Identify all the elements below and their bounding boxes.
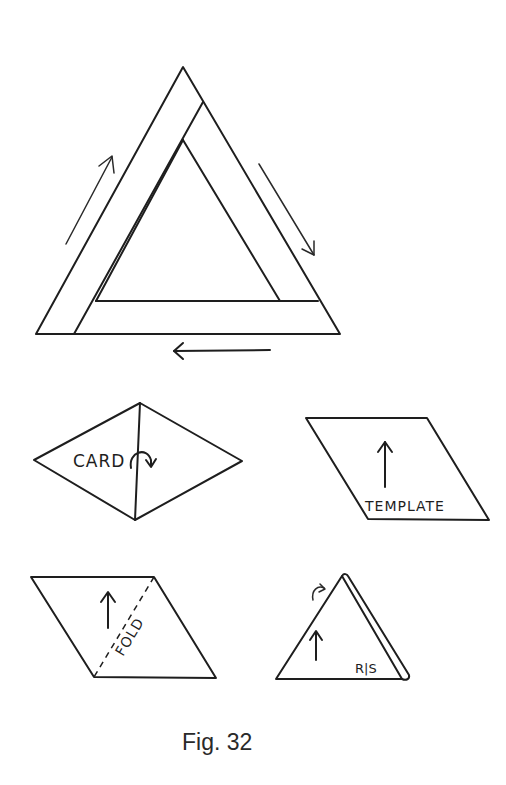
card-label: CARD xyxy=(73,451,125,471)
card-diamond: CARD xyxy=(34,403,242,520)
outer-triangle xyxy=(36,67,340,334)
left-strip-edge xyxy=(74,102,203,334)
inner-right-edge xyxy=(183,140,280,301)
up-arrow-icon xyxy=(310,631,322,660)
template-parallelogram: polyline class="ln" TEMPLATE xyxy=(306,418,489,520)
curved-arrow-icon xyxy=(131,452,156,468)
fold-parallelogram: FOLD xyxy=(31,577,216,678)
folded-triangle: R|S xyxy=(276,574,409,680)
up-arrow-icon: polyline class="ln" xyxy=(378,442,392,487)
small-curved-arrow-icon xyxy=(313,584,325,600)
big-triangle-frame xyxy=(36,67,340,334)
template-label: TEMPLATE xyxy=(364,498,445,514)
fold-label: FOLD xyxy=(112,615,147,659)
arrow-left-icon xyxy=(174,343,270,359)
figure-caption: Fig. 32 xyxy=(182,729,252,756)
arrow-up-left-icon xyxy=(66,156,114,244)
diagram-canvas: CARD polyline class="ln" TEMPLATE FOLD xyxy=(0,0,506,785)
up-arrow-icon xyxy=(101,592,115,628)
rs-label: R|S xyxy=(355,661,377,676)
triangle-outline xyxy=(276,576,402,679)
center-fold-line xyxy=(135,403,140,520)
dashed-fold-line xyxy=(94,577,154,677)
